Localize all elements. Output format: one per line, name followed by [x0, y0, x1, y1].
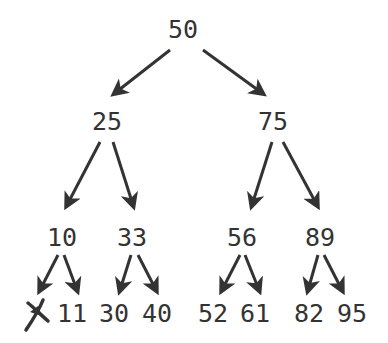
node-56: 56 [227, 225, 257, 250]
arrow-icon-33-to-40 [138, 255, 156, 290]
arrow-icon-25-to-10 [67, 142, 100, 205]
arrow-icon-75-to-56 [252, 142, 272, 205]
arrow-icon-56-to-52 [222, 255, 240, 290]
arrow-icon-50-to-25 [115, 50, 170, 93]
arrow-icon-10-to-11 [64, 255, 77, 290]
arrow-icon-33-to-30 [120, 255, 131, 290]
node-25: 25 [92, 109, 122, 134]
node-82: 82 [294, 301, 324, 326]
node-33: 33 [117, 225, 147, 250]
null-cross-icon [26, 300, 48, 330]
node-61: 61 [240, 301, 270, 326]
node-30: 30 [99, 301, 129, 326]
node-52: 52 [198, 301, 228, 326]
arrow-icon-89-to-82 [308, 255, 318, 290]
node-10: 10 [47, 225, 77, 250]
node-40: 40 [142, 301, 172, 326]
arrow-icon-25-to-33 [113, 142, 133, 205]
node-50-root: 50 [168, 17, 198, 42]
arrow-icon-10-to-null [40, 255, 58, 290]
tree-edges [0, 0, 388, 343]
arrow-icon-89-to-95 [324, 255, 342, 290]
arrow-icon-56-to-61 [245, 255, 259, 290]
arrow-icon-75-to-89 [283, 142, 317, 205]
node-11: 11 [57, 301, 87, 326]
node-75: 75 [258, 109, 288, 134]
node-95: 95 [337, 301, 367, 326]
node-89: 89 [305, 225, 335, 250]
arrow-icon-50-to-75 [203, 50, 262, 93]
